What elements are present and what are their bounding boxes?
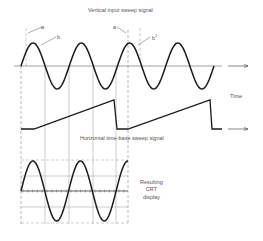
horizontal-sawtooth-wave <box>21 100 222 129</box>
marker-b-prime-superscript: 1 <box>155 33 157 38</box>
marker-pointer-arrows <box>28 27 150 45</box>
marker-a-right: a <box>113 25 116 31</box>
vertical-guide-lines <box>21 28 140 224</box>
marker-b-prime: b1 <box>152 34 157 41</box>
time-arrow-bottom <box>228 128 248 131</box>
time-axis-label: Time <box>230 94 242 100</box>
time-arrow-top <box>228 65 248 68</box>
marker-b-left: b <box>57 35 60 41</box>
crt-display-caption: Resulting CRT display <box>140 179 163 201</box>
crt-caption-line-2: CRT <box>140 186 163 193</box>
horizontal-timebase-title: Horizontal time-base sweep signal <box>80 136 164 142</box>
crt-caption-line-1: Resulting <box>140 179 163 186</box>
vertical-input-title: Vertical input sweep signal <box>88 8 153 14</box>
sweep-diagram <box>0 0 263 241</box>
marker-a-left: a <box>41 25 44 31</box>
crt-caption-line-3: display <box>140 194 163 201</box>
